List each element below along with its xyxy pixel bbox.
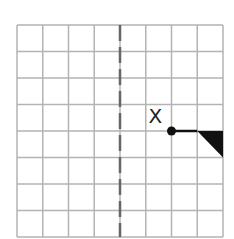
grid-diagram: X — [0, 0, 234, 239]
point-label-x: X — [149, 104, 163, 128]
point-x-dot — [167, 127, 176, 136]
filled-triangle — [197, 131, 223, 158]
